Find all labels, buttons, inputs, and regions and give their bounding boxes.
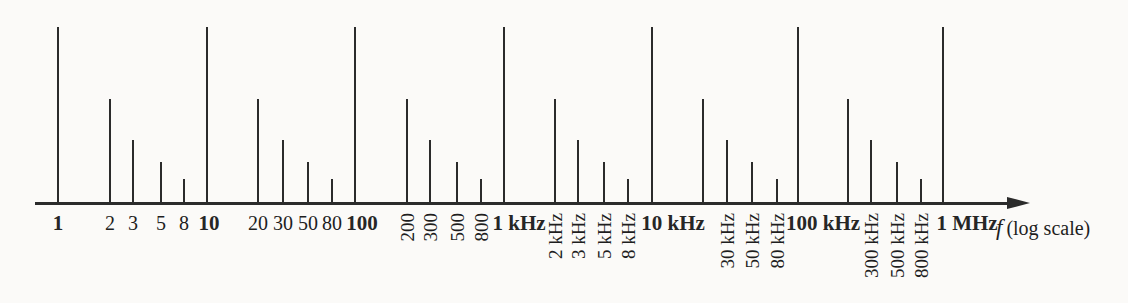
tick-label-80hz: 80	[322, 212, 342, 234]
tick-3000hz	[577, 140, 579, 203]
tick-5000hz	[603, 162, 605, 203]
tick-5hz	[160, 162, 162, 203]
tick-label-80000hz: 80 kHz	[768, 213, 787, 268]
frequency-symbol: f	[996, 215, 1002, 240]
tick-1000hz	[503, 27, 505, 203]
tick-label-5000hz: 5 kHz	[595, 213, 614, 259]
tick-label-1000000hz: 1 MHz	[936, 212, 997, 235]
tick-50hz	[307, 162, 309, 203]
tick-2hz	[109, 99, 111, 203]
tick-50000hz	[751, 162, 753, 203]
tick-label-200hz: 200	[398, 213, 417, 242]
log-scale-note: (log scale)	[1006, 217, 1090, 239]
tick-label-100000hz: 100 kHz	[786, 212, 860, 235]
tick-3hz	[132, 140, 134, 203]
tick-100hz	[354, 27, 356, 203]
tick-label-1hz: 1	[53, 212, 64, 235]
tick-100000hz	[797, 27, 799, 203]
tick-30000hz	[726, 140, 728, 203]
tick-800000hz	[920, 179, 922, 203]
tick-label-20hz: 20	[248, 212, 268, 234]
tick-label-3000hz: 3 kHz	[569, 213, 588, 259]
tick-label-1000hz: 1 kHz	[492, 212, 545, 235]
tick-8hz	[183, 179, 185, 203]
frequency-axis-line	[35, 202, 1008, 205]
tick-1000000hz	[942, 27, 944, 203]
tick-10hz	[206, 27, 208, 203]
tick-label-500000hz: 500 kHz	[888, 213, 907, 278]
tick-500hz	[456, 162, 458, 203]
tick-label-30000hz: 30 kHz	[718, 213, 737, 268]
tick-20hz	[257, 99, 259, 203]
tick-80000hz	[776, 179, 778, 203]
tick-label-100hz: 100	[346, 212, 378, 235]
tick-label-8000hz: 8 kHz	[619, 213, 638, 259]
tick-label-5hz: 5	[156, 212, 166, 234]
tick-300000hz	[870, 140, 872, 203]
tick-1hz	[57, 27, 59, 203]
tick-label-10hz: 10	[199, 212, 220, 235]
tick-200000hz	[847, 99, 849, 203]
tick-20000hz	[702, 99, 704, 203]
tick-label-10000hz: 10 kHz	[641, 212, 705, 235]
tick-label-300000hz: 300 kHz	[862, 213, 881, 278]
tick-label-800000hz: 800 kHz	[912, 213, 931, 278]
tick-2000hz	[554, 99, 556, 203]
axis-label: f(log scale)	[996, 215, 1090, 241]
tick-label-300hz: 300	[421, 213, 440, 242]
axis-arrowhead-icon	[1007, 197, 1030, 209]
tick-30hz	[282, 140, 284, 203]
tick-label-50hz: 50	[298, 212, 318, 234]
tick-10000hz	[651, 27, 653, 203]
tick-80hz	[331, 179, 333, 203]
tick-500000hz	[896, 162, 898, 203]
tick-label-500hz: 500	[448, 213, 467, 242]
tick-label-2000hz: 2 kHz	[546, 213, 565, 259]
tick-8000hz	[627, 179, 629, 203]
tick-label-3hz: 3	[128, 212, 138, 234]
tick-label-8hz: 8	[179, 212, 189, 234]
tick-label-50000hz: 50 kHz	[743, 213, 762, 268]
tick-300hz	[429, 140, 431, 203]
tick-200hz	[406, 99, 408, 203]
tick-label-30hz: 30	[273, 212, 293, 234]
tick-800hz	[480, 179, 482, 203]
log-frequency-scale-figure: 1235810203050801002003005008001 kHz2 kHz…	[0, 0, 1128, 303]
tick-label-800hz: 800	[472, 213, 491, 242]
tick-label-2hz: 2	[105, 212, 115, 234]
